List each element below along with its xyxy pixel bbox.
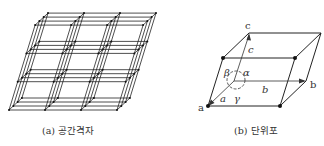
corner-label-c: c xyxy=(245,20,251,31)
corner-label-b: b xyxy=(310,79,316,90)
caption-unit-cell: (b) 단위포 xyxy=(234,123,278,137)
unit-cell-diagram: c b a c b a β α γ xyxy=(198,20,321,113)
edge-label-b: b xyxy=(262,84,268,95)
edge-label-c: c xyxy=(248,44,254,55)
angle-label-beta: β xyxy=(223,67,230,78)
edge-label-a: a xyxy=(220,93,226,104)
angle-label-alpha: α xyxy=(243,67,250,78)
caption-space-lattice: (a) 공간격자 xyxy=(42,123,94,137)
space-lattice-diagram xyxy=(9,13,156,110)
corner-label-a: a xyxy=(198,102,204,113)
angle-label-gamma: γ xyxy=(234,93,240,104)
